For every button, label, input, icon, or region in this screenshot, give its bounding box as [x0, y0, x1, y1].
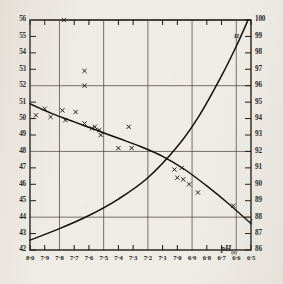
axis-frame: [30, 20, 251, 250]
scatter-marker: [196, 190, 200, 194]
bottom-tick-label: 6·5: [241, 255, 261, 262]
right-tick-label: 89: [255, 197, 283, 204]
left-tick-label: 46: [0, 181, 26, 188]
scatter-marker: [130, 146, 134, 150]
vertical-gridlines: [59, 20, 236, 250]
scatter-marker: [34, 113, 38, 117]
left-tick-label: 43: [0, 230, 26, 237]
left-tick-label: 49: [0, 131, 26, 138]
left-tick-label: 47: [0, 164, 26, 171]
left-tick-label: 56: [0, 16, 26, 23]
left-tick-label: 51: [0, 99, 26, 106]
scatter-marker: [187, 182, 191, 186]
left-tick-label: 53: [0, 66, 26, 73]
scatter-marker: [49, 115, 53, 119]
left-axis-ticks: [30, 20, 36, 250]
scatter-marker: [175, 176, 179, 180]
left-tick-label: 50: [0, 115, 26, 122]
right-tick-label: 97: [255, 66, 283, 73]
left-tick-label: 44: [0, 214, 26, 221]
left-tick-label: 48: [0, 148, 26, 155]
scatter-markers: [34, 18, 236, 208]
right-tick-label: 92: [255, 148, 283, 155]
curve-label-ii: II: [234, 33, 239, 40]
right-tick-label: 95: [255, 99, 283, 106]
left-tick-label: 42: [0, 246, 26, 253]
curve-label-i: I: [250, 218, 253, 225]
right-tick-label: 86: [255, 246, 283, 253]
left-tick-label: 45: [0, 197, 26, 204]
right-tick-label: 87: [255, 230, 283, 237]
x-axis-title-base: pH: [221, 244, 231, 253]
right-axis-ticks: [245, 20, 251, 250]
scatter-marker: [82, 69, 86, 73]
scatter-marker: [172, 167, 176, 171]
right-tick-label: 96: [255, 82, 283, 89]
scatter-marker: [60, 108, 64, 112]
data-curve-ii: [30, 20, 248, 240]
right-tick-label: 94: [255, 115, 283, 122]
right-tick-label: 91: [255, 164, 283, 171]
scatter-marker: [116, 146, 120, 150]
right-tick-label: 98: [255, 49, 283, 56]
chart-plot-area: [0, 0, 283, 284]
bottom-axis-ticks: [30, 245, 251, 250]
scatter-marker: [181, 177, 185, 181]
x-axis-title: pH(s): [221, 245, 237, 255]
scatter-marker: [127, 125, 131, 129]
right-tick-label: 90: [255, 181, 283, 188]
right-tick-label: 100: [255, 16, 283, 23]
right-tick-label: 88: [255, 214, 283, 221]
right-tick-label: 93: [255, 131, 283, 138]
scatter-marker: [99, 133, 103, 137]
right-tick-label: 99: [255, 33, 283, 40]
left-tick-label: 55: [0, 33, 26, 40]
x-axis-title-subscript: (s): [231, 249, 236, 255]
left-tick-label: 54: [0, 49, 26, 56]
scatter-marker: [74, 110, 78, 114]
chart-figure: 565554535251504948474645444342 100999897…: [0, 0, 283, 284]
left-tick-label: 52: [0, 82, 26, 89]
